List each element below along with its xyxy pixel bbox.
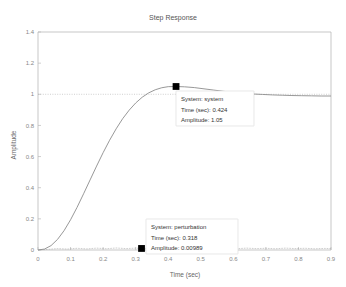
data-tip-amplitude-label: Amplitude: 0.00989 bbox=[151, 245, 203, 251]
x-tick-label: 0.8 bbox=[294, 256, 303, 262]
y-tick-label: 1.2 bbox=[26, 60, 35, 66]
x-tick-label: 0.4 bbox=[164, 256, 173, 262]
x-tick-label: 0.5 bbox=[197, 256, 206, 262]
y-tick-label: 0.6 bbox=[26, 154, 35, 160]
x-tick-label: 0.9 bbox=[327, 256, 336, 262]
data-tip-time-label: Time (sec): 0.424 bbox=[181, 107, 228, 113]
data-tip-amplitude-label: Amplitude: 1.05 bbox=[181, 117, 223, 123]
x-tick-label: 0.2 bbox=[99, 256, 108, 262]
y-tick-label: 1.4 bbox=[26, 29, 35, 35]
x-tick-label: 0.7 bbox=[262, 256, 271, 262]
y-axis-label: Amplitude bbox=[10, 130, 18, 159]
step-response-chart: Step Response 00.10.20.30.40.50.60.70.80… bbox=[0, 0, 346, 287]
figure-window: Step Response 00.10.20.30.40.50.60.70.80… bbox=[0, 0, 346, 287]
data-tip-marker[interactable] bbox=[138, 245, 145, 252]
data-tip-system-label: System: system bbox=[181, 96, 223, 102]
y-tick-label: 0.4 bbox=[26, 185, 35, 191]
chart-title: Step Response bbox=[149, 14, 197, 22]
x-tick-label: 0.1 bbox=[66, 256, 75, 262]
data-tip-perturbation[interactable]: System: perturbationTime (sec): 0.318Amp… bbox=[138, 219, 238, 254]
data-tip-time-label: Time (sec): 0.318 bbox=[151, 235, 198, 241]
y-tick-label: 0.2 bbox=[26, 216, 35, 222]
data-tip-marker[interactable] bbox=[173, 83, 180, 90]
data-tip-system-label: System: perturbation bbox=[151, 224, 206, 230]
x-tick-label: 0.6 bbox=[229, 256, 238, 262]
y-tick-label: 0.8 bbox=[26, 123, 35, 129]
x-axis-label: Time (sec) bbox=[170, 271, 200, 279]
x-tick-label: 0.3 bbox=[131, 256, 140, 262]
